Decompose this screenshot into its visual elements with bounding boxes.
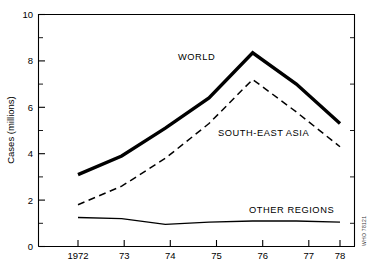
series-label-other-regions: OTHER REGIONS — [249, 205, 334, 215]
x-tick-label-77: 77 — [304, 250, 315, 261]
y-tick-label-6: 6 — [28, 102, 33, 113]
x-axis-ticks — [78, 240, 340, 247]
y-axis-title: Cases (millions) — [5, 96, 16, 164]
x-tick-label-75: 75 — [211, 250, 222, 261]
chart-figure: 0 2 4 6 8 10 Cases (millions) 1972 73 74… — [0, 0, 374, 275]
x-tick-label-78: 78 — [335, 250, 346, 261]
y-axis-tick-labels: 0 2 4 6 8 10 — [22, 9, 33, 252]
series-label-world: WORLD — [178, 52, 215, 62]
y-tick-label-0: 0 — [28, 241, 33, 252]
figure-credit-code: WHO 78121 — [361, 216, 367, 246]
series-line-other-regions — [78, 218, 340, 225]
x-axis-tick-labels: 1972 73 74 75 76 77 78 — [67, 250, 345, 261]
y-axis-right-minor-ticks — [350, 38, 355, 224]
line-chart-canvas: 0 2 4 6 8 10 Cases (millions) 1972 73 74… — [0, 0, 374, 275]
x-tick-label-74: 74 — [165, 250, 176, 261]
y-tick-label-10: 10 — [22, 9, 33, 20]
x-tick-label-73: 73 — [119, 250, 130, 261]
series-label-south-east-asia: SOUTH-EAST ASIA — [218, 128, 310, 138]
series-annotations: WORLD SOUTH-EAST ASIA OTHER REGIONS — [178, 52, 334, 215]
y-tick-label-8: 8 — [28, 55, 33, 66]
y-tick-label-4: 4 — [28, 148, 33, 159]
x-tick-label-76: 76 — [257, 250, 268, 261]
y-axis-minor-ticks — [39, 38, 44, 224]
y-tick-label-2: 2 — [28, 195, 33, 206]
series-line-world — [78, 53, 340, 175]
x-tick-label-1972: 1972 — [67, 250, 88, 261]
data-series-group — [78, 53, 340, 225]
